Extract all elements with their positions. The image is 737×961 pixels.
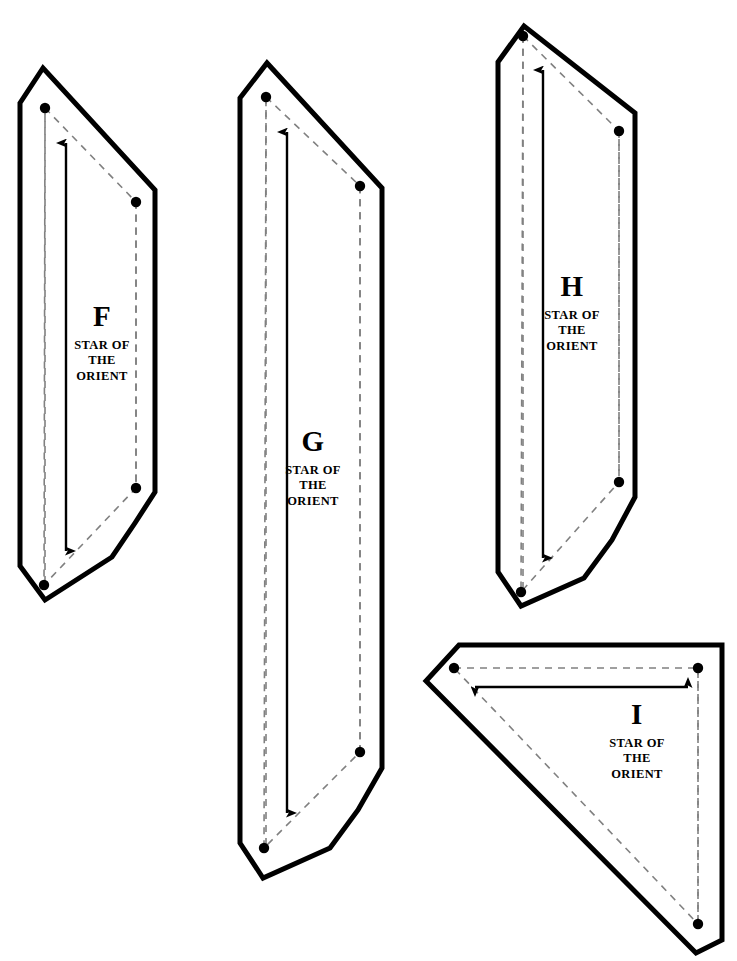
piece-i-cutting-line [426, 645, 722, 953]
piece-g-corner-dot-1 [355, 181, 365, 191]
piece-i-letter: I [609, 700, 665, 729]
piece-f-corner-dot-2 [131, 483, 141, 493]
piece-f-label: F STAR OF THE ORIENT [74, 302, 130, 384]
piece-i [426, 645, 722, 953]
pattern-drawing [0, 0, 737, 961]
piece-g-label: G STAR OF THE ORIENT [285, 427, 341, 509]
piece-f-name-line-3: ORIENT [74, 369, 130, 384]
piece-i-label: I STAR OF THE ORIENT [609, 700, 665, 782]
piece-g-name-line-3: ORIENT [285, 494, 341, 509]
piece-i-name-line-3: ORIENT [609, 767, 665, 782]
piece-f-letter: F [74, 302, 130, 331]
piece-i-name-line-1: STAR OF [609, 736, 665, 751]
piece-f-corner-dot-1 [131, 197, 141, 207]
piece-h-letter: H [544, 272, 600, 301]
piece-i-corner-dot-1 [693, 663, 703, 673]
piece-g-corner-dot-0 [261, 92, 271, 102]
piece-f-name-line-1: STAR OF [74, 338, 130, 353]
piece-g-letter: G [285, 427, 341, 456]
piece-h-corner-dot-3 [516, 587, 526, 597]
piece-g-corner-dot-2 [355, 747, 365, 757]
piece-g-name-line-1: STAR OF [285, 463, 341, 478]
piece-h-name-line-2: THE [544, 323, 600, 338]
piece-g-name-line-2: THE [285, 478, 341, 493]
piece-i-corner-dot-0 [449, 663, 459, 673]
piece-h-name-line-1: STAR OF [544, 308, 600, 323]
piece-f-corner-dot-0 [40, 103, 50, 113]
piece-f-corner-dot-3 [39, 580, 49, 590]
piece-h-corner-dot-2 [614, 477, 624, 487]
piece-f-name-line-2: THE [74, 353, 130, 368]
piece-g-corner-dot-3 [259, 843, 269, 853]
piece-h-label: H STAR OF THE ORIENT [544, 272, 600, 354]
piece-h-corner-dot-1 [614, 126, 624, 136]
piece-h-corner-dot-0 [518, 31, 528, 41]
piece-i-corner-dot-2 [693, 919, 703, 929]
piece-i-name-line-2: THE [609, 751, 665, 766]
pattern-sheet: F STAR OF THE ORIENT G STAR OF THE ORIEN… [0, 0, 737, 961]
piece-h-name-line-3: ORIENT [544, 339, 600, 354]
